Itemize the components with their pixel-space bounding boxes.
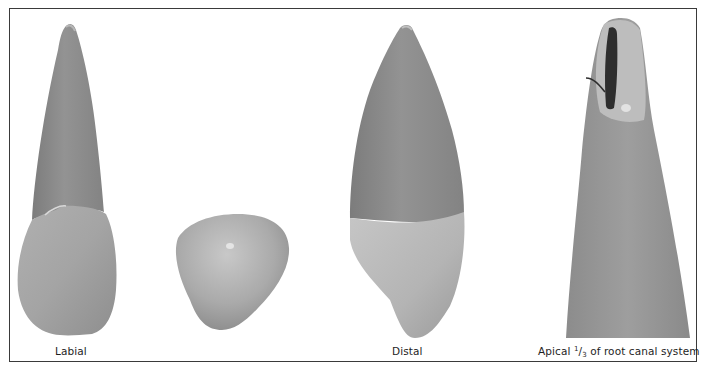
figure-artwork bbox=[0, 0, 705, 370]
fraction-denominator: 3 bbox=[582, 351, 587, 359]
caption-distal: Distal bbox=[392, 345, 423, 357]
caption-apical: Apical 1/3 of root canal system bbox=[538, 345, 700, 359]
caption-apical-fraction: 1/3 bbox=[574, 345, 587, 357]
caption-apical-prefix: Apical bbox=[538, 345, 571, 357]
tooth-labial-view bbox=[18, 24, 117, 335]
tooth-cross-section bbox=[176, 214, 289, 330]
caption-apical-suffix: of root canal system bbox=[590, 345, 699, 357]
root-apex-canal bbox=[566, 18, 690, 338]
caption-labial: Labial bbox=[55, 345, 87, 357]
tooth-distal-view bbox=[350, 25, 464, 338]
